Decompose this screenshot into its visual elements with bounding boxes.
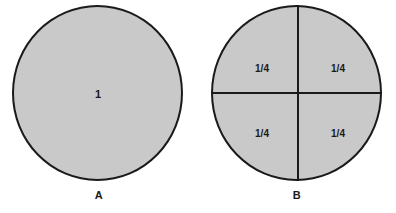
figure-a: 1 A (0, 0, 198, 213)
quadrant-label-top-left: 1/4 (255, 63, 269, 74)
whole-circle-value: 1 (95, 88, 101, 100)
figure-b: 1/4 1/4 1/4 1/4 B (198, 0, 396, 213)
quadrant-label-top-right: 1/4 (331, 63, 345, 74)
quadrant-label-bottom-right: 1/4 (331, 128, 345, 139)
quadrant-label-bottom-left: 1/4 (255, 128, 269, 139)
fraction-circles-diagram: 1 A 1/4 1/4 1/4 1/4 B (0, 0, 396, 213)
figure-b-caption: B (198, 189, 396, 201)
figure-a-caption: A (0, 189, 198, 201)
horizontal-divider-line (211, 92, 382, 94)
